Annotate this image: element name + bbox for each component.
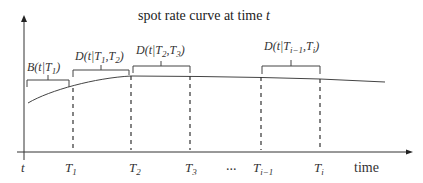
y-axis bbox=[21, 15, 27, 160]
spot-rate-diagram: spot rate curve at time t B(t|T1) D(t|T1… bbox=[0, 0, 423, 183]
tick-ti-1: Ti−1 bbox=[253, 160, 273, 177]
spot-rate-curve bbox=[28, 76, 385, 103]
origin-label: t bbox=[21, 160, 25, 175]
brace-d-t1-t2 bbox=[73, 65, 129, 77]
brace-d-ti-1-ti bbox=[262, 60, 320, 74]
brace-b-t1 bbox=[27, 75, 69, 87]
brace-d-t2-t3 bbox=[133, 61, 190, 73]
label-d-ti-1-ti: D(t|Ti−1,Ti) bbox=[263, 39, 319, 55]
diagram-title: spot rate curve at time t bbox=[138, 8, 271, 23]
tick-t3: T3 bbox=[185, 160, 197, 177]
tick-t1: T1 bbox=[65, 160, 77, 177]
tick-t2: T2 bbox=[129, 160, 141, 177]
x-axis bbox=[17, 150, 413, 155]
x-axis-label: time bbox=[354, 160, 379, 175]
label-d-t2-t3: D(t|T2,T3) bbox=[135, 43, 185, 59]
ellipsis: ... bbox=[226, 158, 237, 173]
x-axis-arrow-icon bbox=[406, 150, 413, 155]
label-b-t1: B(t|T1) bbox=[27, 60, 60, 76]
maturity-dashed-lines bbox=[73, 76, 320, 150]
tick-ti: Ti bbox=[314, 160, 324, 177]
y-axis-arrow-icon bbox=[21, 15, 27, 22]
label-d-t1-t2: D(t|T1,T2) bbox=[74, 49, 124, 65]
